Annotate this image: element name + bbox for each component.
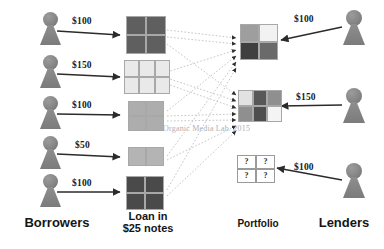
- portfolio-cell: [253, 90, 268, 106]
- loan-box-4[interactable]: [128, 147, 164, 166]
- portfolio-cell: [253, 106, 268, 122]
- arrow-borrower-4: [57, 154, 120, 157]
- note-cell: [146, 116, 164, 131]
- borrower-amount-1: $100: [72, 16, 92, 26]
- lender-amount-2: $150: [296, 92, 316, 102]
- person-head-icon: [43, 174, 58, 189]
- person-body-icon: [40, 149, 61, 169]
- note-cell: [146, 35, 166, 54]
- portfolio-box-2[interactable]: [238, 90, 282, 122]
- note-cell: [128, 116, 146, 131]
- column-header-lenders: Lenders: [306, 216, 382, 230]
- lender-figure-2[interactable]: [340, 88, 368, 124]
- person-head-icon: [346, 88, 362, 104]
- portfolio-cell: [238, 90, 253, 106]
- person-head-icon: [43, 12, 58, 27]
- loan-header-line-2: $25 notes: [112, 222, 184, 234]
- lender-amount-1: $100: [294, 14, 314, 24]
- borrower-amount-4: $50: [75, 140, 90, 150]
- borrower-amount-3: $100: [72, 100, 92, 110]
- note-cell: [139, 60, 154, 77]
- note-cell: [124, 77, 139, 94]
- person-body-icon: [40, 25, 61, 45]
- portfolio-cell: [267, 90, 282, 106]
- portfolio-unknown-cell: ?: [256, 169, 275, 183]
- lender-figure-1[interactable]: [340, 10, 368, 46]
- person-head-icon: [43, 136, 58, 151]
- arrow-borrower-2: [57, 74, 120, 77]
- loan-box-2[interactable]: [124, 60, 170, 94]
- note-cell: [126, 176, 145, 193]
- borrower-amount-5: $100: [72, 178, 92, 188]
- portfolio-box-1[interactable]: [240, 24, 278, 60]
- portfolio-cell: [259, 24, 278, 42]
- watermark: Organic Media Lab. 2015: [163, 124, 250, 133]
- arrow-lender-2: [281, 105, 342, 106]
- portfolio-cell: [240, 42, 259, 60]
- column-header-borrowers: Borrowers: [14, 216, 100, 230]
- borrower-figure-1[interactable]: [38, 12, 64, 46]
- person-head-icon: [346, 163, 362, 179]
- column-header-portfolio: Portfolio: [218, 218, 298, 229]
- note-cell: [126, 35, 146, 54]
- note-cell: [155, 60, 170, 77]
- portfolio-unknown-cell: ?: [237, 169, 256, 183]
- borrower-figure-3[interactable]: [38, 96, 64, 130]
- portfolio-cell: [238, 106, 253, 122]
- loan-header-line-1: Loan in: [112, 210, 184, 222]
- note-cell: [126, 16, 146, 35]
- portfolio-unknown-cell: ?: [237, 155, 256, 169]
- person-head-icon: [43, 55, 58, 70]
- note-cell: [155, 77, 170, 94]
- note-cell: [146, 147, 164, 166]
- note-cell: [145, 193, 164, 210]
- person-body-icon: [343, 177, 365, 198]
- note-cell: [128, 101, 146, 116]
- borrower-figure-2[interactable]: [38, 55, 64, 89]
- arrow-borrower-3: [57, 114, 120, 115]
- loan-box-5[interactable]: [126, 176, 164, 210]
- portfolio-cell: [267, 106, 282, 122]
- diagram-canvas: $100 $150 $100 $50 $100: [0, 0, 384, 249]
- borrower-figure-5[interactable]: [38, 174, 64, 208]
- portfolio-cell: [259, 42, 278, 60]
- borrower-figure-4[interactable]: [38, 136, 64, 170]
- note-cell: [146, 16, 166, 35]
- borrower-amount-2: $150: [72, 60, 92, 70]
- note-cell: [146, 101, 164, 116]
- person-body-icon: [343, 24, 365, 45]
- lender-amount-3: $100: [294, 162, 314, 172]
- loan-box-1[interactable]: [126, 16, 166, 54]
- person-body-icon: [40, 109, 61, 129]
- person-body-icon: [40, 187, 61, 207]
- lender-figure-3[interactable]: [340, 163, 368, 199]
- note-cell: [145, 176, 164, 193]
- loan-box-3[interactable]: [128, 101, 164, 131]
- note-cell: [139, 77, 154, 94]
- note-cell: [124, 60, 139, 77]
- column-header-loan-notes: Loan in $25 notes: [112, 210, 184, 234]
- person-body-icon: [343, 102, 365, 123]
- person-head-icon: [43, 96, 58, 111]
- arrow-lender-1: [281, 27, 342, 40]
- note-cell: [126, 193, 145, 210]
- portfolio-cell: [240, 24, 259, 42]
- portfolio-unknown-cell: ?: [256, 155, 275, 169]
- portfolio-box-3[interactable]: ? ? ? ?: [237, 155, 275, 183]
- person-body-icon: [40, 68, 61, 88]
- note-cell: [128, 147, 146, 166]
- person-head-icon: [346, 10, 362, 26]
- arrow-borrower-1: [57, 31, 120, 35]
